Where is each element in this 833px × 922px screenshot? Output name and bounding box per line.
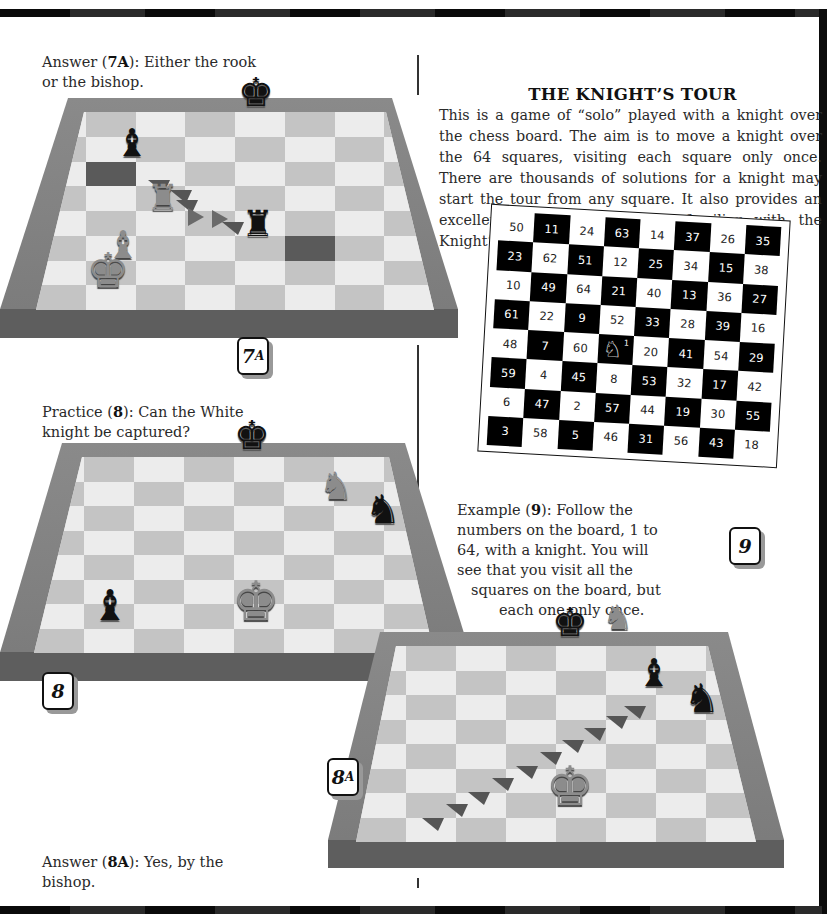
black-king-piece: ♚ xyxy=(238,72,274,112)
tour-square: 37 xyxy=(674,221,711,252)
section-title: THE KNIGHT’S TOUR xyxy=(440,85,825,104)
board-square xyxy=(184,482,234,507)
white-king-piece: ♚ xyxy=(546,760,594,814)
board-square xyxy=(335,186,385,211)
tour-square: 11 xyxy=(533,213,570,244)
board-square xyxy=(185,112,235,137)
tour-square: 25 xyxy=(637,248,674,279)
board-square xyxy=(184,604,234,629)
tour-square: 7 xyxy=(527,330,564,361)
black-bishop-piece: ♝ xyxy=(91,585,129,627)
board-square xyxy=(184,580,234,605)
diagram-label-7a: 7A xyxy=(237,337,269,375)
tour-square: 43 xyxy=(698,428,735,459)
board-square xyxy=(235,112,285,137)
board-square xyxy=(456,818,506,843)
tour-square: 18 xyxy=(733,430,770,461)
board-square xyxy=(184,531,234,556)
board-square xyxy=(134,457,184,482)
bottom-border-bar xyxy=(0,906,822,914)
board-square xyxy=(284,506,334,531)
board-square xyxy=(556,818,606,843)
board-square xyxy=(406,695,456,720)
board-square xyxy=(285,162,335,187)
black-bishop-piece: ♝ xyxy=(115,124,149,162)
tour-square: 59 xyxy=(490,357,527,388)
tour-square: 52 xyxy=(599,305,636,336)
board-square xyxy=(506,720,556,745)
board-square xyxy=(185,285,235,310)
board-square xyxy=(456,744,506,769)
board-square xyxy=(456,695,506,720)
board-square xyxy=(285,236,335,261)
tour-square: 42 xyxy=(736,371,773,402)
board-square xyxy=(606,793,656,818)
board-square xyxy=(184,555,234,580)
board-square xyxy=(285,285,335,310)
board-square xyxy=(335,285,385,310)
move-arrow-icon xyxy=(188,208,204,226)
diagram-label-8: 8 xyxy=(42,672,74,710)
tour-square: 31 xyxy=(627,424,664,455)
board-square xyxy=(284,580,334,605)
board-square xyxy=(656,769,706,794)
board-square xyxy=(706,818,756,843)
board-square xyxy=(136,261,186,286)
tour-square: 2 xyxy=(559,390,596,421)
board-square xyxy=(606,769,656,794)
board-square xyxy=(134,482,184,507)
column-divider xyxy=(417,878,419,888)
tour-square: 64 xyxy=(565,274,602,305)
tour-square: 10 xyxy=(495,270,532,301)
board-square xyxy=(235,137,285,162)
board-square xyxy=(84,457,134,482)
tour-square: 28 xyxy=(669,309,706,340)
move-arrow-icon xyxy=(422,818,444,831)
tour-square: 47 xyxy=(524,389,561,420)
board-square xyxy=(606,818,656,843)
tour-square: 63 xyxy=(604,217,641,248)
tour-square: 3 xyxy=(487,416,524,447)
board-square xyxy=(335,211,385,236)
board-square xyxy=(456,646,506,671)
board-square xyxy=(136,236,186,261)
board-square xyxy=(335,261,385,286)
tour-square: 33 xyxy=(634,307,671,338)
board-square xyxy=(134,629,184,654)
start-marker: 1 xyxy=(624,338,630,347)
tour-square: 13 xyxy=(671,280,708,311)
board-square xyxy=(185,261,235,286)
black-bishop-piece: ♝ xyxy=(637,654,671,692)
board-square xyxy=(556,695,606,720)
board-square xyxy=(234,531,284,556)
board-square xyxy=(285,137,335,162)
tour-square: 5 xyxy=(557,420,594,451)
board-square xyxy=(134,531,184,556)
board-square xyxy=(86,186,136,211)
board-square xyxy=(84,629,134,654)
board-square xyxy=(334,531,384,556)
board-square xyxy=(506,695,556,720)
tour-square: 40 xyxy=(636,278,673,309)
tour-square: 56 xyxy=(663,426,700,457)
board-square xyxy=(184,506,234,531)
board-square xyxy=(406,720,456,745)
tour-square: 35 xyxy=(744,225,781,256)
knight-icon: ♘ xyxy=(602,338,623,361)
tour-square: 23 xyxy=(496,241,533,272)
tour-square: 62 xyxy=(532,242,569,273)
board-square xyxy=(334,604,384,629)
tour-square: 60 xyxy=(562,332,599,363)
board-square xyxy=(335,112,385,137)
tour-square: 27 xyxy=(741,283,778,314)
tour-square: 51 xyxy=(567,244,604,275)
move-arrow-icon xyxy=(222,222,244,235)
column-divider xyxy=(417,55,419,95)
tour-square: 21 xyxy=(600,276,637,307)
board-square xyxy=(136,285,186,310)
tour-square: 46 xyxy=(592,422,629,453)
move-arrow-icon xyxy=(584,728,606,741)
white-king-piece: ♚ xyxy=(232,575,280,629)
board-square xyxy=(335,137,385,162)
tour-square: 30 xyxy=(699,398,736,429)
